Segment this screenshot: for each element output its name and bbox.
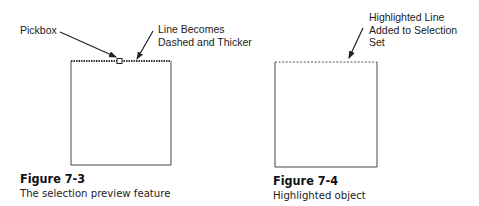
- callout-line: Set: [369, 36, 457, 49]
- callout-line: Line Becomes: [158, 23, 252, 36]
- figure-number: Figure 7-4: [273, 174, 364, 188]
- callout-line: Highlighted Line: [369, 11, 457, 24]
- callout-line: Dashed and Thicker: [158, 36, 252, 49]
- pickbox-label: Pickbox: [20, 24, 57, 36]
- dashed-line-arrow-icon: [137, 31, 153, 59]
- dashed-line-callout: Line Becomes Dashed and Thicker: [158, 23, 252, 48]
- figure-caption: The selection preview feature: [20, 187, 170, 200]
- figure-7-4-rectangle: [275, 62, 377, 167]
- figure-7-3-rectangle: [71, 61, 171, 165]
- pickbox-icon: [117, 59, 122, 64]
- pickbox-callout: Pickbox: [20, 24, 57, 37]
- figure-7-4-caption-block: Figure 7-4 Highlighted object: [273, 174, 374, 202]
- figure-caption: Highlighted object: [273, 189, 366, 202]
- highlighted-line-arrow-icon: [349, 28, 363, 58]
- figure-number: Figure 7-3: [20, 172, 167, 186]
- highlighted-line-callout: Highlighted Line Added to Selection Set: [369, 11, 457, 49]
- figure-7-3-caption-block: Figure 7-3 The selection preview feature: [20, 172, 183, 200]
- callout-line: Added to Selection: [369, 24, 457, 37]
- pickbox-arrow-icon: [60, 32, 116, 57]
